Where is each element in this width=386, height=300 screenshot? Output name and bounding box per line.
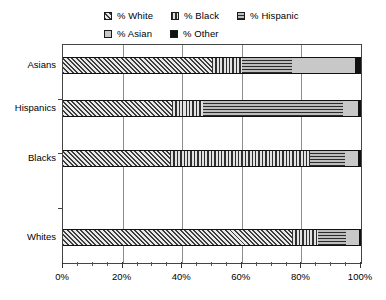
x-axis-minor-tick <box>271 262 272 266</box>
x-axis: 0%20%40%60%80%100% <box>62 262 360 298</box>
x-axis-minor-tick <box>211 262 212 266</box>
x-axis-label-60pct: 60% <box>231 271 250 282</box>
legend-item-white: % White <box>104 9 153 23</box>
x-axis-minor-tick <box>92 262 93 266</box>
x-axis-label-20pct: 20% <box>112 271 131 282</box>
x-axis-minor-tick <box>315 262 316 266</box>
legend-label-black: % Black <box>184 11 219 21</box>
x-axis-minor-tick <box>345 262 346 266</box>
vertical-lines-swatch <box>171 12 179 20</box>
x-axis-minor-tick <box>256 262 257 266</box>
bar-segment-other <box>358 150 361 167</box>
y-axis: AsiansHispanicsBlacksWhites <box>0 44 62 262</box>
legend-label-other: % Other <box>183 29 219 39</box>
legend-label-asian: % Asian <box>117 29 152 39</box>
x-axis-major-tick <box>241 262 242 268</box>
bar-segment-hispanic <box>242 57 293 74</box>
plot-area <box>62 44 362 264</box>
bar-segment-black <box>170 150 310 167</box>
y-axis-label-whites: Whites <box>27 231 56 242</box>
table-row <box>63 100 361 117</box>
table-row <box>63 150 361 167</box>
legend-item-other: % Other <box>170 27 219 41</box>
x-axis-minor-tick <box>107 262 108 266</box>
x-axis-minor-tick <box>166 262 167 266</box>
bar-segment-white <box>63 229 292 246</box>
black-swatch <box>170 30 178 38</box>
horizontal-lines-swatch <box>237 12 245 20</box>
bar-segment-asian <box>343 100 358 117</box>
legend-item-black: % Black <box>171 9 219 23</box>
x-axis-minor-tick <box>196 262 197 266</box>
x-axis-label-80pct: 80% <box>291 271 310 282</box>
x-axis-minor-tick <box>330 262 331 266</box>
chart-legend: % White % Black % Hispanic % Asian % Oth… <box>104 9 374 41</box>
bar-segment-asian <box>346 229 359 246</box>
bar-segment-white <box>63 150 170 167</box>
table-row <box>63 57 361 74</box>
x-axis-minor-tick <box>137 262 138 266</box>
bar-segment-hispanic <box>318 229 346 246</box>
bar-segment-black <box>292 229 317 246</box>
legend-item-asian: % Asian <box>104 27 152 41</box>
light-gray-swatch <box>104 30 112 38</box>
bar-segment-white <box>63 100 172 117</box>
x-axis-label-100pct: 100% <box>348 271 372 282</box>
table-row <box>63 229 361 246</box>
x-axis-major-tick <box>122 262 123 268</box>
bar-segment-asian <box>345 150 358 167</box>
x-axis-label-0pct: 0% <box>55 271 69 282</box>
legend-label-white: % White <box>117 11 153 21</box>
bar-segment-black <box>212 57 242 74</box>
bar-segment-other <box>359 229 360 246</box>
x-axis-minor-tick <box>226 262 227 266</box>
bar-segment-hispanic <box>310 150 344 167</box>
legend-item-hispanic: % Hispanic <box>237 9 299 23</box>
x-axis-label-40pct: 40% <box>172 271 191 282</box>
x-axis-minor-tick <box>77 262 78 266</box>
bar-segment-black <box>172 100 203 117</box>
x-axis-major-tick <box>62 262 63 268</box>
bar-segment-white <box>63 57 212 74</box>
x-axis-major-tick <box>300 262 301 268</box>
x-axis-major-tick <box>181 262 182 268</box>
bar-segment-other <box>355 57 361 74</box>
y-axis-label-blacks: Blacks <box>28 152 56 163</box>
bar-segment-hispanic <box>203 100 343 117</box>
x-axis-minor-tick <box>286 262 287 266</box>
stacked-bar-chart: % White % Black % Hispanic % Asian % Oth… <box>0 0 386 300</box>
y-axis-label-asians: Asians <box>27 59 56 70</box>
x-axis-major-tick <box>360 262 361 268</box>
bar-segment-asian <box>292 57 355 74</box>
x-axis-minor-tick <box>151 262 152 266</box>
y-axis-label-hispanics: Hispanics <box>15 102 56 113</box>
diagonal-hatch-swatch <box>104 12 112 20</box>
bar-segment-other <box>358 100 361 117</box>
legend-label-hispanic: % Hispanic <box>250 11 299 21</box>
